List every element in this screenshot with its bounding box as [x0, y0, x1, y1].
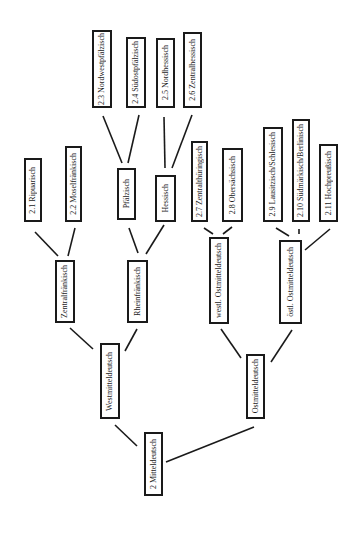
- node-mitteldeutsch: 2 Mitteldeutsch: [144, 432, 163, 496]
- edge-rheinfraenkisch-pfaelzisch: [129, 228, 138, 253]
- edge-ostmitteldeutsch-oestl_omd: [271, 330, 292, 362]
- node-label: Pfälzisch: [123, 179, 131, 208]
- node-label: 2 Mitteldeutsch: [150, 439, 158, 489]
- edge-pfaelzisch-nordwestpfaelzisch: [103, 116, 122, 163]
- dialect-tree-diagram: 2 MitteldeutschWestmitteldeutschOstmitte…: [0, 0, 356, 534]
- edges-layer: [0, 0, 356, 534]
- node-label: 2.6 Zentralhessisch: [189, 39, 197, 101]
- node-label: 2.1 Ripuarisch: [29, 167, 37, 214]
- node-zentralthueringisch: 2.7 Zentralthüringisch: [191, 141, 208, 222]
- edge-westl_omd-zentralthueringisch: [204, 228, 213, 234]
- node-westmitteldeutsch: Westmitteldeutsch: [100, 343, 120, 419]
- node-rheinfraenkisch: Rheinfränkisch: [127, 260, 148, 323]
- node-label: 2.11 Hochpreußisch: [325, 151, 333, 215]
- edge-hessisch-zentralhessisch: [172, 115, 192, 168]
- edge-pfaelzisch-suedostpfaelzisch: [128, 115, 139, 163]
- edge-oestl_omd-lausitzisch: [276, 228, 289, 236]
- node-pfaelzisch: Pfälzisch: [117, 168, 136, 220]
- node-label: 2.3 Nordwestpfälzisch: [98, 33, 106, 105]
- edge-westmitteldeutsch-zentralfraenkisch: [70, 328, 93, 349]
- edge-mitteldeutsch-ostmitteldeutsch: [166, 427, 254, 462]
- node-oestl_omd: östl. Ostmitteldeutsch: [279, 240, 302, 324]
- edge-hessisch-nordhessisch: [164, 117, 165, 168]
- edge-ostmitteldeutsch-westl_omd: [221, 329, 241, 358]
- node-label: Hessisch: [162, 184, 170, 212]
- node-label: Rheinfränkisch: [134, 267, 142, 316]
- edge-mitteldeutsch-westmitteldeutsch: [115, 425, 137, 446]
- node-label: 2.9 Lausitzisch/Schlesisch: [269, 132, 277, 216]
- node-hochpreussisch: 2.11 Hochpreußisch: [319, 144, 338, 222]
- node-moselfraenkisch: 2.2 Moselfränkisch: [65, 146, 82, 222]
- edge-westmitteldeutsch-rheinfraenkisch: [125, 329, 137, 351]
- node-nordwestpfaelzisch: 2.3 Nordwestpfälzisch: [92, 30, 112, 108]
- node-label: Ostmitteldeutsch: [252, 359, 260, 413]
- node-hessisch: Hessisch: [155, 175, 176, 222]
- node-label: 2.2 Moselfränkisch: [70, 153, 78, 215]
- node-ostmitteldeutsch: Ostmitteldeutsch: [246, 354, 265, 419]
- edge-westl_omd-obersaechsisch: [223, 227, 232, 234]
- node-zentralfraenkisch: Zentralfränkisch: [55, 260, 75, 323]
- node-label: Westmitteldeutsch: [106, 352, 114, 411]
- node-label: östl. Ostmitteldeutsch: [287, 247, 295, 317]
- edge-zentralfraenkisch-ripuarisch: [35, 232, 58, 256]
- node-label: Zentralfränkisch: [61, 265, 69, 318]
- node-label: 2.10 Südmärkisch/Berlinisch: [297, 124, 305, 217]
- edge-oestl_omd-hochpreussisch: [305, 229, 330, 250]
- node-lausitzisch: 2.9 Lausitzisch/Schlesisch: [263, 127, 283, 222]
- node-suedostpfaelzisch: 2.4 Südostpfälzisch: [126, 37, 146, 108]
- node-label: 2.8 Obersächsisch: [229, 156, 237, 214]
- node-label: 2.4 Südostpfälzisch: [132, 41, 140, 104]
- edge-zentralfraenkisch-moselfraenkisch: [68, 228, 75, 256]
- node-westl_omd: westl. Ostmitteldeutsch: [209, 237, 229, 324]
- node-nordhessisch: 2.5 Nordhessisch: [156, 38, 175, 108]
- node-label: 2.7 Zentralthüringisch: [196, 146, 204, 217]
- node-suedmaerkisch: 2.10 Südmärkisch/Berlinisch: [292, 119, 310, 222]
- edge-rheinfraenkisch-hessisch: [146, 225, 164, 254]
- node-label: westl. Ostmitteldeutsch: [215, 243, 223, 318]
- node-zentralhessisch: 2.6 Zentralhessisch: [183, 32, 202, 108]
- node-label: 2.5 Nordhessisch: [162, 45, 170, 100]
- node-ripuarisch: 2.1 Ripuarisch: [24, 158, 42, 222]
- node-obersaechsisch: 2.8 Obersächsisch: [222, 148, 243, 222]
